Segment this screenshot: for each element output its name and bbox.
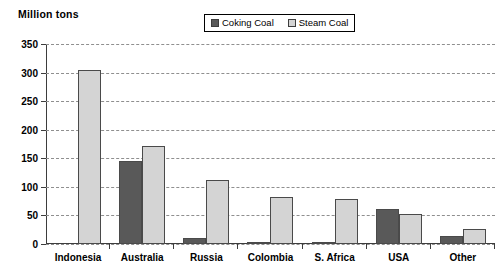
- coking-coal-swatch-icon: [211, 19, 219, 27]
- y-axis-tick-label: 50: [27, 210, 38, 221]
- bar-group: USA: [367, 44, 431, 244]
- bar-coking-coal-s-africa: [312, 242, 335, 244]
- bar-steam-coal-other: [463, 229, 486, 244]
- bar-steam-coal-usa: [399, 214, 422, 244]
- x-axis-tick: [302, 244, 303, 249]
- y-axis-tick-label: 100: [21, 181, 38, 192]
- y-axis-title: Million tons: [18, 8, 79, 20]
- bar-coking-coal-australia: [119, 161, 142, 244]
- bar-steam-coal-australia: [142, 146, 165, 244]
- x-axis-label-s-africa: S. Africa: [315, 252, 355, 263]
- x-axis-tick: [173, 244, 174, 249]
- coal-export-bar-chart: Million tons Coking Coal Steam Coal 0501…: [0, 0, 501, 271]
- bar-group: Indonesia: [46, 44, 110, 244]
- x-axis-label-other: Other: [450, 252, 477, 263]
- x-axis-label-colombia: Colombia: [248, 252, 294, 263]
- bar-steam-coal-russia: [206, 180, 229, 244]
- bar-steam-coal-s-africa: [335, 199, 358, 244]
- y-axis-tick-label: 300: [21, 67, 38, 78]
- y-axis-tick-label: 350: [21, 39, 38, 50]
- bar-coking-coal-colombia: [247, 242, 270, 244]
- chart-legend: Coking Coal Steam Coal: [204, 14, 355, 32]
- legend-label-coking-coal: Coking Coal: [222, 17, 274, 28]
- y-axis-tick-label: 250: [21, 96, 38, 107]
- x-axis-tick: [366, 244, 367, 249]
- x-axis-tick: [237, 244, 238, 249]
- y-axis-tick-label: 150: [21, 153, 38, 164]
- bar-coking-coal-russia: [183, 238, 206, 244]
- legend-item-steam-coal: Steam Coal: [288, 17, 349, 28]
- bar-steam-coal-indonesia: [78, 70, 101, 244]
- gridline: [46, 244, 495, 245]
- bar-group: Other: [431, 44, 495, 244]
- x-axis-tick: [494, 244, 495, 249]
- x-axis-tick: [430, 244, 431, 249]
- x-axis-tick: [109, 244, 110, 249]
- y-axis-tick: [41, 244, 46, 245]
- legend-item-coking-coal: Coking Coal: [211, 17, 274, 28]
- y-axis-tick-label: 0: [32, 239, 38, 250]
- bar-group: Russia: [174, 44, 238, 244]
- bar-group: Australia: [110, 44, 174, 244]
- x-axis-label-australia: Australia: [121, 252, 164, 263]
- bar-group: S. Africa: [303, 44, 367, 244]
- bar-groups: IndonesiaAustraliaRussiaColombiaS. Afric…: [46, 44, 495, 244]
- plot-area: 050100150200250300350 IndonesiaAustralia…: [46, 44, 495, 244]
- bar-steam-coal-colombia: [270, 197, 293, 244]
- legend-label-steam-coal: Steam Coal: [299, 17, 349, 28]
- x-axis-label-russia: Russia: [190, 252, 223, 263]
- steam-coal-swatch-icon: [288, 19, 296, 27]
- x-axis-label-indonesia: Indonesia: [55, 252, 102, 263]
- x-axis-label-usa: USA: [388, 252, 409, 263]
- bar-coking-coal-other: [440, 236, 463, 244]
- bar-coking-coal-usa: [376, 209, 399, 244]
- bar-group: Colombia: [238, 44, 302, 244]
- y-axis-tick-label: 200: [21, 124, 38, 135]
